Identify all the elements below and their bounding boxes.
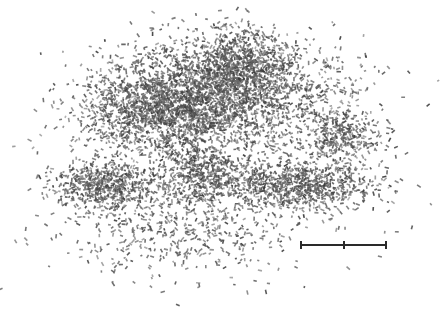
scale-bar-tick-start <box>300 241 302 249</box>
microscopy-image <box>0 0 448 312</box>
scale-bar-tick-end <box>385 241 387 249</box>
particle-field <box>0 0 448 312</box>
scale-bar-tick-mid <box>343 241 345 249</box>
